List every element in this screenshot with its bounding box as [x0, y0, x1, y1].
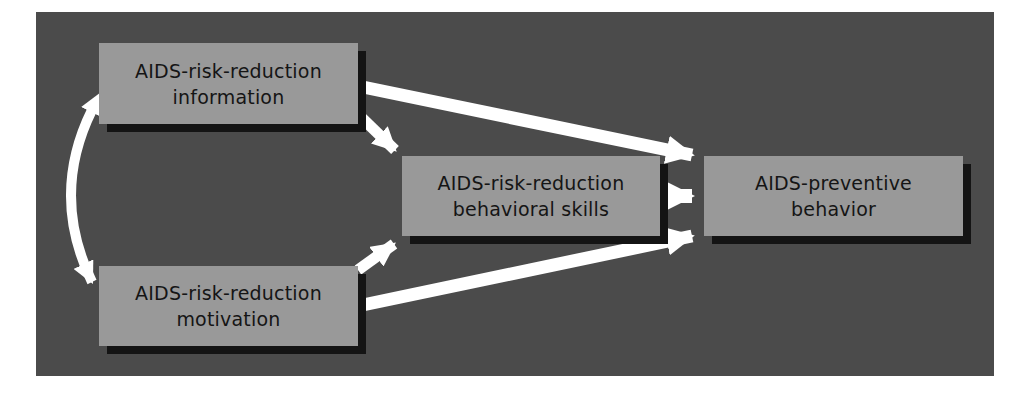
arrow-motivation-to-behavior: [358, 236, 692, 306]
arrow-information-to-skills: [362, 118, 395, 150]
node-motivation-line1: AIDS-risk-reduction: [135, 280, 322, 306]
arrow-information-to-behavior: [358, 86, 692, 155]
node-behavior-line2: behavior: [755, 196, 912, 222]
node-motivation-line2: motivation: [135, 306, 322, 332]
arrow-information-motivation-bidirectional: [71, 110, 92, 282]
node-information-line1: AIDS-risk-reduction: [135, 58, 322, 84]
node-motivation: AIDS-risk-reduction motivation: [99, 266, 358, 346]
node-information-line2: information: [135, 84, 322, 110]
node-preventive-behavior: AIDS-preventive behavior: [704, 156, 963, 236]
node-skills-line1: AIDS-risk-reduction: [438, 170, 625, 196]
node-skills-line2: behavioral skills: [438, 196, 625, 222]
node-information: AIDS-risk-reduction information: [99, 43, 358, 124]
node-behavior-line1: AIDS-preventive: [755, 170, 912, 196]
arrow-motivation-to-skills: [358, 244, 394, 270]
node-behavioral-skills: AIDS-risk-reduction behavioral skills: [402, 156, 660, 236]
